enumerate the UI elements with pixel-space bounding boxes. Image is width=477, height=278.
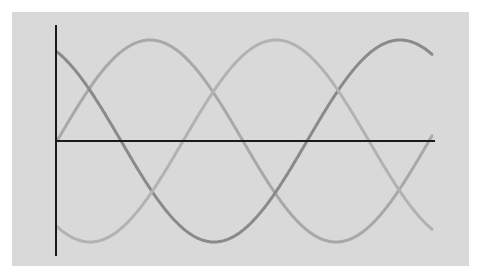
line-chart [0,0,477,278]
